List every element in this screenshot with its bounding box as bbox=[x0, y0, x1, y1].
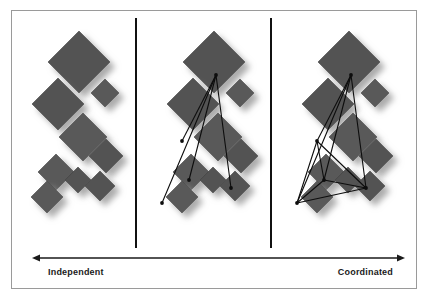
spoke-node-low-dot bbox=[160, 201, 164, 205]
spoke-node-mid-dot bbox=[187, 178, 191, 182]
spoke-node-left-dot bbox=[315, 139, 319, 143]
hub-node-dot bbox=[214, 73, 218, 77]
spoke-node-low-dot bbox=[295, 201, 299, 205]
spoke-node-right-dot bbox=[364, 186, 368, 190]
axis-label-independent: Independent bbox=[48, 267, 104, 277]
hub-node-dot bbox=[349, 73, 353, 77]
figure-container: Independent Coordinated bbox=[0, 0, 427, 298]
axis-label-coordinated: Coordinated bbox=[338, 267, 393, 277]
spoke-node-right-dot bbox=[229, 186, 233, 190]
coordination-spectrum-svg: Independent Coordinated bbox=[0, 0, 427, 298]
spoke-node-mid-dot bbox=[322, 178, 326, 182]
spoke-node-left-dot bbox=[180, 139, 184, 143]
